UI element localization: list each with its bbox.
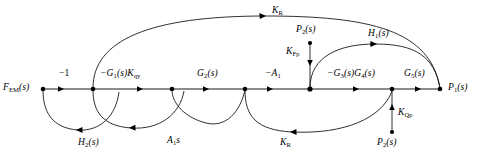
label-gain-kr-bottom: KR [280,138,291,148]
label-p2-bottom-source: P2(s) [377,138,397,148]
label-p2-top-source: P2(s) [296,25,316,35]
label-gain-h2: H2(s) [78,138,99,148]
label-gain-g1-kqy: −G1(s)Kqy [100,69,140,79]
arrowhead-h2 [76,127,83,133]
node-dot-3 [170,87,175,92]
label-gain-a1s: A1s [167,136,180,146]
edge-h2 [43,90,119,133]
arrowhead-kr-top [259,13,266,19]
main-forward-path [43,86,440,92]
arrowhead-edge-g2 [203,86,209,92]
label-gain-kr-top: KR [272,6,283,16]
arrowhead-edge-g1kqy [137,86,143,92]
signal-flow-graph-figure: FEM(s) −1 −G1(s)Kqy G2(s) −A1 −G3(s)G4(s… [0,0,481,163]
edge-a1s-path [93,90,184,128]
node-dot-2 [91,87,96,92]
label-gain-g2: G2(s) [197,69,218,79]
label-gain-kfp: KFp [286,47,300,57]
node-dot-p1 [438,87,443,92]
label-gain-h1: H1(s) [368,29,389,39]
arrowhead-h1 [370,41,377,47]
arrowhead-edge-g3g4 [353,86,359,92]
node-dot-5 [307,86,312,91]
node-dot-6 [390,87,395,92]
arrowhead-kfp [307,60,313,66]
edge-a1s [93,90,184,131]
label-gain-minus-a1: −A1 [265,69,281,79]
edge-h1 [310,41,440,88]
label-gain-minus-one: −1 [59,69,69,79]
label-gain-kqp: KQp [398,108,413,118]
arrowhead-edge-g5 [415,86,421,92]
label-gain-g3-g4: −G3(s)G4(s) [327,69,375,79]
node-dot-4 [243,87,248,92]
label-gain-g5: G5(s) [404,69,425,79]
label-f-em: FEM(s) [3,83,29,93]
arrowhead-edge-minus-one [58,86,64,92]
arrowhead-a1s [129,125,136,131]
edge-h1-path [310,44,440,88]
arrowhead-edge-minus-a1 [267,86,273,92]
arrowhead-kqp [389,104,395,110]
signal-flow-graph-canvas [0,0,481,163]
edge-kr-bottom-path [245,90,392,132]
arrowhead-kr-bottom [290,129,297,135]
node-dot-p2-bottom [390,130,394,134]
edge-h2-path [43,90,119,130]
edge-kr-bottom [245,90,392,135]
node-dot-fem [41,87,46,92]
node-dot-p2-top [308,41,312,45]
edge-kfp [307,41,313,89]
label-p1-output: P1(s) [448,83,468,93]
